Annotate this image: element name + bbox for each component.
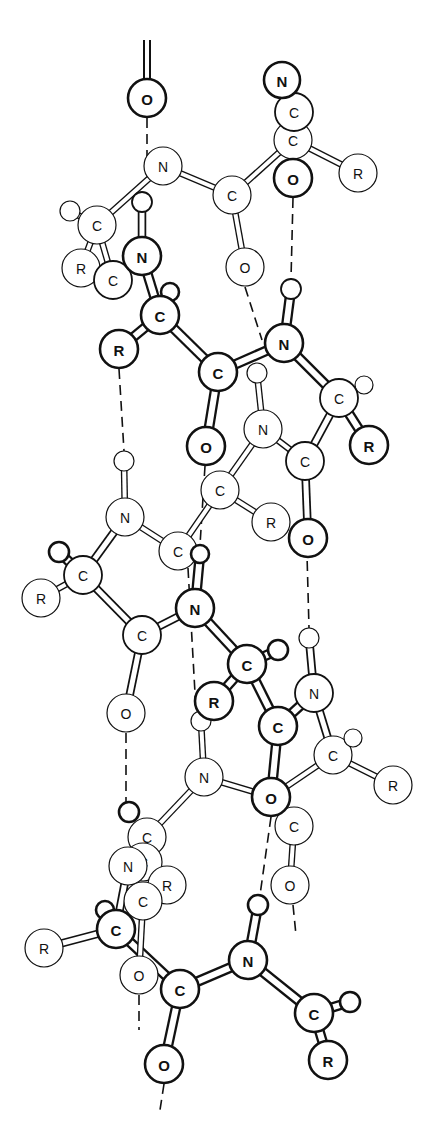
atom-c: C (295, 994, 333, 1032)
atom-label: R (76, 261, 86, 277)
atom-label: C (328, 748, 338, 764)
atom-label: C (242, 657, 253, 674)
atom-label: R (39, 941, 49, 957)
atom-h (281, 279, 301, 299)
atom-label: N (279, 336, 290, 353)
atom-label: C (111, 922, 122, 939)
atom-label: C (138, 894, 148, 910)
atom-h (299, 628, 319, 648)
atom-h (132, 192, 152, 212)
atom-label: R (162, 878, 172, 894)
atom-r: R (252, 503, 290, 541)
atom-o: O (274, 159, 312, 197)
atom-n: N (265, 324, 303, 362)
atom-r: R (195, 682, 233, 720)
atom-r: R (350, 426, 388, 464)
atom-c: C (259, 707, 297, 745)
hydrogen-bond (260, 817, 271, 895)
atom-label: O (121, 706, 132, 722)
atom-n: N (106, 498, 144, 536)
atom-label: O (141, 91, 153, 108)
atom-sphere (340, 992, 360, 1012)
atom-o: O (289, 519, 327, 557)
atom-r: R (25, 929, 63, 967)
atom-h (344, 729, 362, 747)
atom-r: R (374, 766, 412, 804)
atom-c: C (64, 556, 102, 594)
atom-label: C (173, 544, 183, 560)
atom-label: C (273, 719, 284, 736)
atom-r: R (309, 1041, 347, 1079)
atom-o: O (107, 694, 145, 732)
atom-n: N (123, 237, 161, 275)
atom-r: R (339, 154, 377, 192)
atom-label: R (364, 438, 375, 455)
atom-sphere (281, 279, 301, 299)
atom-n: N (244, 410, 282, 448)
atom-o: O (271, 866, 309, 904)
atom-label: C (175, 982, 186, 999)
atom-r: R (22, 579, 60, 617)
atom-label: O (302, 531, 314, 548)
hydrogen-bond (245, 287, 262, 340)
atom-c: C (78, 206, 116, 244)
atom-c: C (320, 379, 358, 417)
atom-sphere (119, 802, 139, 822)
atom-label: O (265, 790, 277, 807)
atom-o: O (128, 79, 166, 117)
atom-label: R (36, 591, 46, 607)
atom-h (191, 545, 209, 563)
atom-label: N (243, 953, 254, 970)
atom-c: C (286, 442, 324, 480)
atom-sphere (248, 895, 268, 915)
atom-sphere (191, 545, 209, 563)
atom-n: N (185, 758, 223, 796)
atom-label: N (277, 73, 288, 90)
atom-label: N (137, 249, 148, 266)
hydrogen-bond (293, 905, 296, 935)
atom-c: C (97, 910, 135, 948)
atom-label: C (289, 819, 299, 835)
atom-label: C (309, 1006, 320, 1023)
atom-c: C (199, 353, 237, 391)
alpha-helix-diagram: CRNCCORNCRNCROCRNCCCRNOCROCCCCCCNONONCRC… (0, 0, 440, 1143)
atom-label: N (123, 859, 133, 875)
hydrogen-bond (291, 198, 293, 279)
atom-o: O (252, 778, 290, 816)
atom-c: C (213, 176, 251, 214)
atom-o: O (226, 248, 264, 286)
atom-h (49, 542, 69, 562)
atom-label: C (300, 454, 310, 470)
atom-label: C (213, 365, 224, 382)
atom-label: O (240, 260, 251, 276)
atom-label: N (199, 770, 209, 786)
atom-o: O (187, 427, 225, 465)
atom-h (114, 451, 134, 471)
atom-label: C (137, 628, 147, 644)
atom-c: C (123, 616, 161, 654)
atom-label: O (158, 1057, 170, 1074)
atom-label: R (266, 515, 276, 531)
atom-sphere (247, 363, 267, 383)
atom-sphere (114, 451, 134, 471)
atom-h (60, 201, 80, 221)
atom-label: C (108, 273, 118, 289)
atom-label: O (200, 439, 212, 456)
atom-label: O (285, 878, 296, 894)
atom-h (248, 895, 268, 915)
atom-label: C (334, 391, 344, 407)
molecule-canvas: CRNCCORNCRNCROCRNCCCRNOCROCCCCCCNONONCRC… (0, 0, 440, 1143)
atom-sphere (344, 729, 362, 747)
atom-sphere (60, 201, 80, 221)
atom-label: N (120, 510, 130, 526)
atom-h (340, 992, 360, 1012)
atom-c: C (201, 471, 239, 509)
atom-label: C (215, 483, 225, 499)
hydrogen-bond (200, 466, 205, 545)
atom-sphere (49, 542, 69, 562)
atom-layer: CRNCCORNCRNCROCRNCCCRNOCROCCCCCCNONONCRC… (22, 62, 412, 1083)
atom-sphere (268, 640, 288, 660)
atom-label: C (288, 133, 298, 149)
atom-n: N (264, 62, 300, 98)
atom-c: C (228, 645, 266, 683)
